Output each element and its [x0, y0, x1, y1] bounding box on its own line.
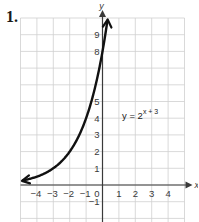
equation-exponent: x + 3: [143, 108, 158, 115]
y-axis-label: y: [98, 1, 104, 11]
y-tick-label: 9: [94, 29, 99, 40]
y-tick-label: 4: [94, 113, 99, 124]
x-tick-label: 4: [165, 188, 170, 199]
x-tick-label: −3: [47, 188, 58, 199]
y-tick-label: 5: [94, 96, 99, 107]
y-tick-label: 1: [94, 163, 99, 174]
equation-label: y = 2x + 3: [122, 108, 158, 121]
exponential-graph: xy −4−3−2−101234−11234589 y = 2x + 3: [0, 0, 198, 222]
x-tick-label: 3: [149, 188, 154, 199]
x-axis-label: x: [194, 180, 199, 190]
x-tick-label: −2: [63, 188, 74, 199]
x-tick-label: 1: [116, 188, 121, 199]
x-tick-label: −4: [30, 188, 41, 199]
y-tick-label: 8: [94, 46, 99, 57]
x-tick-label: 2: [133, 188, 138, 199]
x-axis-arrow-icon: [186, 182, 193, 189]
y-axis-arrow-icon: [99, 10, 106, 17]
y-tick-label: −1: [89, 196, 100, 207]
y-tick-label: 2: [94, 146, 99, 157]
y-tick-label: 3: [94, 129, 99, 140]
equation-base: y = 2: [122, 110, 143, 121]
